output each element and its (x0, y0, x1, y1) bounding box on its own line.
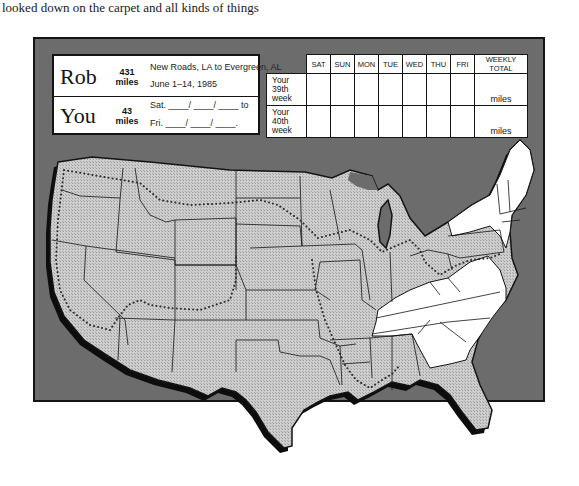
cell-40-sat[interactable] (307, 106, 331, 138)
cell-39-sat[interactable] (307, 74, 331, 106)
col-header-sun: SUN (331, 55, 355, 74)
row-label-39th-week: Your 39th week (267, 74, 307, 106)
cell-40-mon[interactable] (355, 106, 379, 138)
table-header-row: SAT SUN MON TUE WED THU FRI WEEKLY TOTAL (267, 55, 528, 74)
col-header-wed: WED (403, 55, 427, 74)
cell-39-wed[interactable] (403, 74, 427, 106)
rob-miles-value: 431 (112, 67, 142, 77)
weekly-log-table: SAT SUN MON TUE WED THU FRI WEEKLY TOTAL… (266, 54, 528, 138)
row-label-40th-week: Your 40th week (267, 106, 307, 138)
table-corner (267, 55, 307, 74)
cell-40-fri[interactable] (451, 106, 475, 138)
col-header-mon: MON (355, 55, 379, 74)
cell-40-thu[interactable] (427, 106, 451, 138)
cell-39-mon[interactable] (355, 74, 379, 106)
table-row: Your 40th week miles (267, 106, 528, 138)
col-header-sat: SAT (307, 55, 331, 74)
cell-39-weekly-total[interactable]: miles (475, 74, 528, 106)
table-row: Your 39th week miles (267, 74, 528, 106)
rob-row: Rob 431 miles New Roads, LA to Evergreen… (54, 56, 258, 97)
col-header-thu: THU (427, 55, 451, 74)
cell-39-fri[interactable] (451, 74, 475, 106)
you-miles: 43 miles (112, 106, 142, 126)
col-header-tue: TUE (379, 55, 403, 74)
cell-39-sun[interactable] (331, 74, 355, 106)
cell-40-weekly-total[interactable]: miles (475, 106, 528, 138)
you-row: You 43 miles Sat. ____/ ____/ ____ to Fr… (54, 96, 258, 136)
col-header-weekly-total: WEEKLY TOTAL (475, 55, 528, 74)
rob-route: New Roads, LA to Evergreen, AL (150, 62, 282, 72)
rob-name: Rob (60, 64, 97, 90)
page: looked down on the carpet and all kinds … (0, 0, 579, 486)
rob-miles-unit: miles (112, 77, 142, 87)
mileage-tracker-box: Rob 431 miles New Roads, LA to Evergreen… (52, 54, 260, 135)
rob-dates: June 1–14, 1985 (150, 79, 217, 89)
you-name: You (60, 103, 96, 129)
you-miles-unit: miles (112, 116, 142, 126)
you-start-date-line[interactable]: Sat. ____/ ____/ ____ to (150, 100, 249, 110)
cell-40-sun[interactable] (331, 106, 355, 138)
row-label-line: week (272, 94, 306, 103)
you-miles-value: 43 (112, 106, 142, 116)
rob-miles: 431 miles (112, 67, 142, 87)
row-label-line: week (272, 126, 306, 135)
col-header-fri: FRI (451, 55, 475, 74)
cell-39-thu[interactable] (427, 74, 451, 106)
cell-39-tue[interactable] (379, 74, 403, 106)
cell-40-wed[interactable] (403, 106, 427, 138)
total-unit-label: miles (475, 126, 527, 136)
cell-40-tue[interactable] (379, 106, 403, 138)
you-end-date-line[interactable]: Fri. ____/ ____/ ____. (150, 118, 238, 128)
total-unit-label: miles (475, 94, 527, 104)
